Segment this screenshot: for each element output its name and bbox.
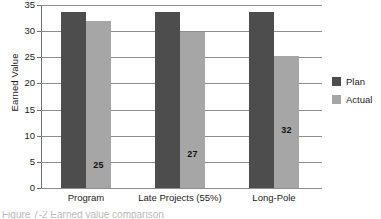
y-tick-label-10: 10 bbox=[24, 131, 35, 141]
bar-value-long-pole: 32 bbox=[281, 125, 291, 135]
legend-label-plan: Plan bbox=[346, 76, 365, 87]
bar-plan-program bbox=[61, 12, 86, 188]
gridline-0: 0 bbox=[41, 188, 322, 189]
tick-mark-25 bbox=[37, 57, 41, 58]
bar-actual-long-pole bbox=[274, 56, 299, 188]
bar-value-program: 25 bbox=[93, 160, 103, 170]
tick-mark-0 bbox=[37, 188, 41, 189]
gridline-35: 35 bbox=[41, 5, 322, 6]
y-tick-label-15: 15 bbox=[24, 105, 35, 115]
plot-area: 35 30 25 20 15 10 5 0 bbox=[41, 5, 322, 189]
earned-value-bar-chart: Earned Value 35 30 25 20 15 10 bbox=[0, 0, 381, 219]
y-tick-label-5: 5 bbox=[30, 157, 35, 167]
bar-actual-late-projects bbox=[180, 32, 205, 188]
tick-mark-35 bbox=[37, 5, 41, 6]
bar-plan-late-projects bbox=[155, 12, 180, 188]
legend-swatch-actual-icon bbox=[332, 95, 341, 104]
y-tick-label-20: 20 bbox=[24, 79, 35, 89]
y-tick-label-0: 0 bbox=[30, 183, 35, 193]
legend-swatch-plan-icon bbox=[332, 77, 341, 86]
y-axis-title: Earned Value bbox=[9, 23, 20, 143]
y-tick-label-25: 25 bbox=[24, 53, 35, 63]
tick-mark-15 bbox=[37, 110, 41, 111]
legend-item-actual: Actual bbox=[332, 92, 372, 107]
tick-mark-30 bbox=[37, 31, 41, 32]
x-axis-label-program: Program bbox=[68, 192, 104, 203]
tick-mark-10 bbox=[37, 136, 41, 137]
y-tick-label-30: 30 bbox=[24, 26, 35, 36]
legend-label-actual: Actual bbox=[346, 94, 372, 105]
bar-value-late-projects: 27 bbox=[187, 149, 197, 159]
figure-caption-cropped: Figure 7-2 Earned value comparison bbox=[0, 211, 381, 219]
legend-item-plan: Plan bbox=[332, 74, 372, 89]
x-axis-label-late-projects: Late Projects (55%) bbox=[138, 192, 221, 203]
tick-mark-5 bbox=[37, 162, 41, 163]
y-tick-label-35: 35 bbox=[24, 0, 35, 10]
figure-caption-text: Figure 7-2 Earned value comparison bbox=[2, 211, 164, 219]
x-axis-label-long-pole: Long-Pole bbox=[252, 192, 295, 203]
tick-mark-20 bbox=[37, 83, 41, 84]
bar-plan-long-pole bbox=[249, 12, 274, 188]
legend: Plan Actual bbox=[332, 74, 372, 110]
